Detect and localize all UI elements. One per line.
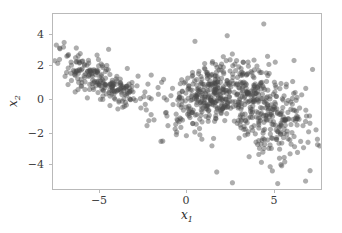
xtick-mark-0: [186, 190, 187, 193]
x-axis-label: x1: [181, 208, 193, 224]
ytick-mark-2: [49, 65, 52, 66]
ytick-label-neg2: −2: [22, 128, 44, 139]
ytick-label-2: 2: [26, 60, 44, 71]
x-axis-label-subscript: 1: [188, 215, 193, 224]
xtick-mark-neg5: [99, 190, 100, 193]
x-axis-label-base: x: [181, 208, 188, 222]
xtick-label-neg5: −5: [91, 195, 107, 206]
y-axis-label: x2: [6, 95, 22, 107]
plot-area: [52, 13, 322, 190]
scatter-figure: 4 2 0 −2 −4 −5 0 5 x1 x2: [0, 0, 342, 233]
y-axis-label-base: x: [6, 100, 20, 107]
ytick-mark-4: [49, 34, 52, 35]
xtick-label-5: 5: [271, 195, 278, 206]
y-axis-label-subscript: 2: [13, 95, 22, 100]
ytick-mark-neg4: [49, 164, 52, 165]
scatter-points-layer: [53, 14, 322, 190]
xtick-label-0: 0: [183, 195, 190, 206]
ytick-label-4: 4: [26, 29, 44, 40]
ytick-mark-neg2: [49, 133, 52, 134]
ytick-label-0: 0: [26, 94, 44, 105]
ytick-label-neg4: −4: [22, 159, 44, 170]
ytick-mark-0: [49, 99, 52, 100]
xtick-mark-5: [274, 190, 275, 193]
